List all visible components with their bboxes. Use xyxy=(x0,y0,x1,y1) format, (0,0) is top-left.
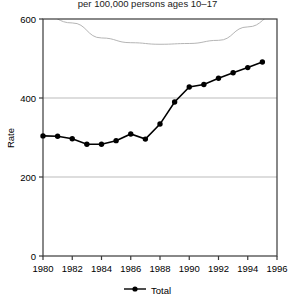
svg-text:1984: 1984 xyxy=(91,263,112,274)
data-point xyxy=(245,65,250,70)
data-point xyxy=(70,136,75,141)
data-point xyxy=(157,121,162,126)
svg-text:1994: 1994 xyxy=(237,263,258,274)
svg-text:200: 200 xyxy=(20,172,36,183)
chart-container: per 100,000 persons ages 10–17 020040060… xyxy=(0,0,295,304)
data-point xyxy=(40,133,45,138)
data-point xyxy=(172,99,177,104)
svg-text:1992: 1992 xyxy=(208,263,229,274)
svg-text:400: 400 xyxy=(20,93,36,104)
legend-label-total: Total xyxy=(151,284,171,298)
series-total xyxy=(40,59,265,147)
gridlines xyxy=(43,98,277,177)
plot-frame xyxy=(43,19,277,256)
legend-marker-total xyxy=(124,284,146,298)
svg-text:1988: 1988 xyxy=(149,263,170,274)
data-point xyxy=(113,138,118,143)
svg-text:1996: 1996 xyxy=(266,263,287,274)
svg-text:0: 0 xyxy=(31,251,36,262)
svg-text:1980: 1980 xyxy=(32,263,53,274)
data-point xyxy=(201,82,206,87)
data-point xyxy=(187,84,192,89)
data-point xyxy=(230,70,235,75)
x-axis: 198019821984198619881990199219941996 xyxy=(32,256,287,274)
svg-text:1986: 1986 xyxy=(120,263,141,274)
data-point xyxy=(99,142,104,147)
y-axis-title: Rate xyxy=(5,128,16,148)
svg-text:1982: 1982 xyxy=(62,263,83,274)
y-axis: 0200400600 xyxy=(20,14,43,262)
data-point xyxy=(216,76,221,81)
svg-text:600: 600 xyxy=(20,14,36,25)
chart-plot: 0200400600 19801982198419861988199019921… xyxy=(0,0,295,304)
data-point xyxy=(84,142,89,147)
data-point xyxy=(55,134,60,139)
data-point xyxy=(128,131,133,136)
chart-legend: Total xyxy=(0,284,295,298)
data-point xyxy=(143,136,148,141)
svg-text:1990: 1990 xyxy=(179,263,200,274)
data-point xyxy=(260,59,265,64)
